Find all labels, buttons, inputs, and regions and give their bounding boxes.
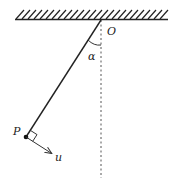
- ceiling-hatching: [16, 10, 168, 19]
- velocity-arrow: [26, 137, 51, 153]
- label-pivot-O: O: [107, 25, 116, 38]
- pendulum-diagram: O α P u: [0, 0, 176, 183]
- label-bob-P: P: [12, 125, 21, 138]
- angle-arc: [88, 40, 101, 45]
- right-angle-marker: [30, 130, 37, 141]
- pendulum-rod: [26, 20, 101, 137]
- label-angle-alpha: α: [88, 50, 96, 63]
- label-velocity-u: u: [55, 151, 62, 164]
